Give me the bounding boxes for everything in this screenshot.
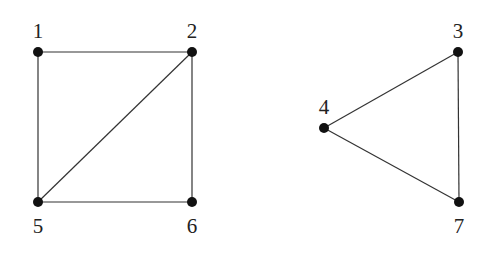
vertex-label-2: 2 (187, 19, 198, 43)
vertex-1 (33, 47, 43, 57)
vertex-2 (187, 47, 197, 57)
graph-svg: 1234567 (0, 0, 487, 253)
vertex-label-1: 1 (33, 19, 44, 43)
vertex-label-3: 3 (453, 19, 464, 43)
vertex-3 (453, 47, 463, 57)
vertex-7 (454, 197, 464, 207)
vertex-label-7: 7 (454, 214, 465, 238)
vertex-label-6: 6 (187, 214, 198, 238)
vertex-6 (187, 197, 197, 207)
graph-diagram: 1234567 (0, 0, 487, 253)
vertex-label-5: 5 (33, 214, 44, 238)
edges-layer (38, 52, 459, 202)
edge-3-7 (458, 52, 459, 202)
vertex-label-4: 4 (319, 95, 330, 119)
edge-2-5 (38, 52, 192, 202)
nodes-layer (33, 47, 464, 207)
edge-3-4 (324, 52, 458, 128)
vertex-4 (319, 123, 329, 133)
vertex-5 (33, 197, 43, 207)
edge-4-7 (324, 128, 459, 202)
